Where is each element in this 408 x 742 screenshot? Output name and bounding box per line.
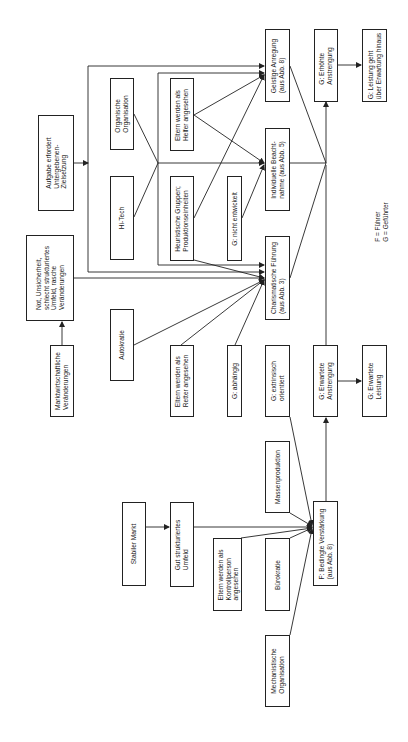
legend: F = Führer G = Geführter (372, 196, 392, 248)
node-label: Marktwirtschaftliche Veränderungen (54, 352, 69, 410)
node-label: Not, Unsicherheit, schlecht strukturiert… (35, 246, 65, 310)
node-individuelle-beachtnahme: Individuelle Beacht- nahme (aus Abb. 5) (265, 128, 290, 211)
node-label: Geistige Anregung (aus Abb. 8) (270, 38, 285, 92)
node-label: Eltern werden als Retter angesehen (174, 355, 189, 407)
node-mechanistische: Mechanistische Organisation (265, 635, 290, 707)
node-not-unsicherheit: Not, Unsicherheit, schlecht strukturiert… (26, 235, 74, 321)
node-label: Stabiler Markt (130, 524, 138, 565)
node-aufgabe: Aufgabe erfordert Untergebenen- Zielsetz… (38, 115, 74, 211)
node-erwartete-anstrengung: G: Erwartete Anstrengung (313, 345, 338, 417)
node-buerokratie: Bürokratie (265, 538, 290, 611)
node-label: G: Leistung geht über Erwartung hinaus (367, 32, 382, 98)
node-label: Heuristische Gruppen; Produktionseinheit… (174, 186, 189, 252)
node-eltern-retter: Eltern werden als Retter angesehen (170, 345, 194, 417)
node-stabiler-markt: Stabiler Markt (122, 502, 146, 586)
node-eltern-kontrollperson: Eltern werden als Kontrollperson angeseh… (213, 538, 242, 611)
node-erhoehte-anstrengung: G: Erhöhte Anstrengung (314, 29, 338, 102)
node-label: Eltern werden als Kontrollperson angeseh… (216, 549, 239, 600)
node-eltern-helfer: Eltern werden als Helfer angesehen (170, 78, 194, 151)
node-label: G: Erwartete Leistung (367, 362, 382, 399)
node-label: Bürokratie (274, 559, 282, 589)
node-label: Individuelle Beacht- nahme (aus Abb. 5) (270, 141, 285, 199)
node-label: Gut strukturiertes Umfeld (174, 519, 189, 570)
node-leistung-geht-hinaus: G: Leistung geht über Erwartung hinaus (362, 29, 387, 102)
node-charismatische-fuehrung: Charismatische Führung (aus Abb. 3) (265, 236, 290, 320)
node-extrinsisch: G: extrinsisch orientiert (265, 345, 290, 417)
node-erwartete-leistung: G: Erwartete Leistung (362, 345, 387, 417)
node-label: G: Erhöhte Anstrengung (318, 47, 333, 84)
node-massenproduktion: Massenproduktion (265, 441, 290, 513)
legend-text: F = Führer G = Geführter (374, 202, 389, 241)
node-label: Autokratie (118, 330, 126, 360)
node-heuristische: Heuristische Gruppen; Produktionseinheit… (170, 176, 194, 261)
node-label: Mechanistische Organisation (270, 648, 285, 693)
node-bedingte-verstaerkung: F: Bedingte Verstärkung (aus Abb. 8) (313, 501, 338, 586)
node-geistige-anregung: Geistige Anregung (aus Abb. 8) (265, 29, 290, 102)
node-label: G: nicht entwickelt (231, 192, 239, 246)
node-label: F: Bedingte Verstärkung (aus Abb. 8) (318, 508, 333, 579)
node-gut-strukturiert: Gut strukturiertes Umfeld (170, 502, 194, 587)
node-hitech: Hi-Tech (110, 176, 134, 260)
node-abhaengig: G: abhängig (227, 345, 242, 417)
node-label: G: extrinsisch orientiert (270, 361, 285, 401)
node-label: Eltern werden als Helfer angesehen (174, 88, 189, 140)
node-label: Organische Organisation (114, 95, 129, 132)
node-label: G: abhängig (231, 363, 239, 399)
node-label: Hi-Tech (118, 207, 126, 229)
node-label: Aufgabe erfordert Untergebenen- Zielsetz… (45, 137, 68, 188)
node-label: G: Erwartete Anstrengung (318, 362, 333, 399)
node-label: Charismatische Führung (aus Abb. 3) (270, 242, 285, 314)
node-autokratie: Autokratie (110, 309, 134, 381)
node-organische: Organische Organisation (110, 78, 134, 150)
node-label: Massenproduktion (274, 450, 282, 504)
leadership-diagram: Aufgabe erfordert Untergebenen- Zielsetz… (0, 0, 408, 742)
node-marktwirtschaftliche: Marktwirtschaftliche Veränderungen (50, 345, 74, 417)
node-nicht-entwickelt: G: nicht entwickelt (227, 176, 242, 261)
